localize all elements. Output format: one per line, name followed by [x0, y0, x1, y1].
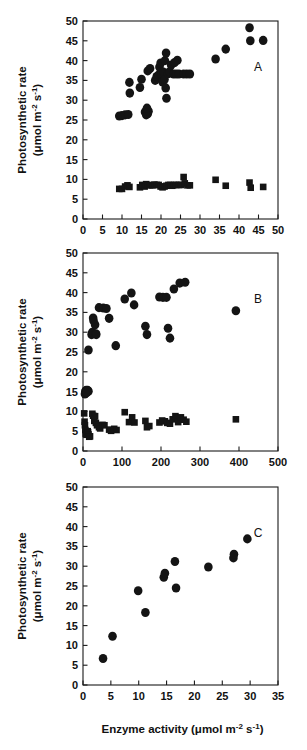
data-point-circle	[162, 293, 171, 302]
x-ticklabel-B-0: 0	[80, 456, 86, 468]
data-point-circle	[171, 557, 180, 566]
data-point-circle	[124, 110, 133, 119]
y-axis-title-line1-A: Photosynthetic rate	[16, 66, 28, 173]
data-point-circle	[259, 36, 268, 45]
data-point-circle	[83, 387, 92, 396]
y-axis-title-C: Photosynthetic rate(μmol m-2 s-1)	[16, 532, 43, 639]
y-axis-title-A: Photosynthetic rate(μmol m-2 s-1)	[16, 66, 43, 173]
x-ticklabel-B-400: 400	[230, 456, 248, 468]
data-point-square	[81, 410, 88, 417]
data-point-circle	[172, 583, 181, 592]
x-ticklabel-A-15: 15	[135, 224, 147, 236]
series-A-high-rate-circles	[115, 23, 268, 120]
x-ticklabel-A-40: 40	[233, 224, 245, 236]
data-point-circle	[161, 569, 170, 578]
data-point-circle	[108, 632, 117, 641]
data-point-circle	[162, 94, 171, 103]
data-point-square	[131, 419, 138, 426]
panel-label-B: B	[254, 292, 262, 306]
data-point-circle	[170, 58, 179, 67]
data-point-circle	[120, 294, 129, 303]
x-ticklabel-A-10: 10	[116, 224, 128, 236]
x-ticklabel-A-45: 45	[252, 224, 264, 236]
data-point-circle	[102, 304, 111, 313]
y-ticklabel-A-25: 25	[66, 114, 78, 126]
x-ticklabel-C-10: 10	[133, 690, 145, 702]
data-point-square	[212, 176, 219, 183]
y-ticklabel-A-20: 20	[66, 134, 78, 146]
data-point-square	[247, 184, 254, 191]
y-axis-title-B: Photosynthetic rate(μmol m-2 s-1)	[16, 298, 43, 405]
data-point-square	[113, 427, 120, 434]
y-ticklabel-B-35: 35	[66, 306, 78, 318]
y-axis-title-line1-C: Photosynthetic rate	[16, 532, 28, 639]
y-ticklabel-A-40: 40	[66, 55, 78, 67]
data-point-circle	[126, 89, 135, 98]
y-ticklabel-C-45: 45	[66, 501, 78, 513]
panel-C: 0510152025303540455005101520253035CPhoto…	[16, 481, 284, 702]
plot-frame-C	[83, 487, 278, 685]
data-point-circle	[232, 306, 241, 315]
y-ticklabel-A-15: 15	[66, 154, 78, 166]
y-ticklabel-B-5: 5	[72, 425, 78, 437]
data-point-square	[222, 182, 229, 189]
y-ticklabel-A-45: 45	[66, 35, 78, 47]
x-ticklabel-A-0: 0	[80, 224, 86, 236]
x-ticklabel-C-15: 15	[160, 690, 172, 702]
y-axis-title-line2-C: (μmol m-2 s-1)	[30, 550, 44, 623]
y-axis-title-line2-A: (μmol m-2 s-1)	[30, 84, 44, 157]
y-ticklabel-B-25: 25	[66, 346, 78, 358]
data-point-circle	[125, 78, 134, 87]
data-point-circle	[161, 83, 170, 92]
x-ticklabel-B-500: 500	[269, 456, 287, 468]
data-point-circle	[221, 45, 230, 54]
y-ticklabel-B-15: 15	[66, 386, 78, 398]
y-ticklabel-A-10: 10	[66, 173, 78, 185]
figure-container: 0510152025303540455005101520253035404550…	[0, 0, 307, 750]
data-point-circle	[246, 36, 255, 45]
data-point-circle	[204, 562, 213, 571]
data-point-square	[187, 182, 194, 189]
data-point-circle	[166, 334, 175, 343]
data-point-square	[121, 409, 128, 416]
y-ticklabel-C-30: 30	[66, 560, 78, 572]
x-ticklabel-A-20: 20	[155, 224, 167, 236]
y-ticklabel-A-0: 0	[72, 213, 78, 225]
data-point-circle	[127, 288, 136, 297]
data-point-square	[260, 184, 267, 191]
data-point-circle	[146, 64, 155, 73]
data-point-circle	[181, 278, 190, 287]
y-ticklabel-B-50: 50	[66, 247, 78, 259]
data-point-square	[126, 184, 133, 191]
y-ticklabel-C-0: 0	[72, 679, 78, 691]
y-ticklabel-B-20: 20	[66, 366, 78, 378]
y-ticklabel-B-0: 0	[72, 445, 78, 457]
y-ticklabel-A-50: 50	[66, 15, 78, 27]
series-A-low-rate-squares	[116, 174, 267, 192]
data-point-circle	[99, 654, 108, 663]
y-axis-title-line2-B: (μmol m-2 s-1)	[30, 316, 44, 389]
data-point-circle	[243, 534, 252, 543]
y-ticklabel-B-40: 40	[66, 287, 78, 299]
x-ticklabel-A-35: 35	[213, 224, 225, 236]
data-point-circle	[91, 320, 100, 329]
x-ticklabel-C-20: 20	[188, 690, 200, 702]
y-ticklabel-A-35: 35	[66, 74, 78, 86]
x-ticklabel-B-300: 300	[191, 456, 209, 468]
x-ticklabel-C-30: 30	[244, 690, 256, 702]
y-ticklabel-C-10: 10	[66, 639, 78, 651]
y-ticklabel-C-20: 20	[66, 600, 78, 612]
data-point-circle	[92, 330, 101, 339]
data-point-circle	[84, 345, 93, 354]
y-ticklabel-B-30: 30	[66, 326, 78, 338]
y-ticklabel-C-25: 25	[66, 580, 78, 592]
data-point-circle	[141, 322, 150, 331]
data-point-square	[87, 433, 94, 440]
data-point-circle	[230, 550, 239, 559]
y-ticklabel-C-15: 15	[66, 620, 78, 632]
data-point-circle	[162, 49, 171, 58]
y-ticklabel-C-40: 40	[66, 521, 78, 533]
y-ticklabel-B-45: 45	[66, 267, 78, 279]
data-point-circle	[186, 70, 195, 79]
series-B-high-rate-circles	[81, 278, 241, 399]
